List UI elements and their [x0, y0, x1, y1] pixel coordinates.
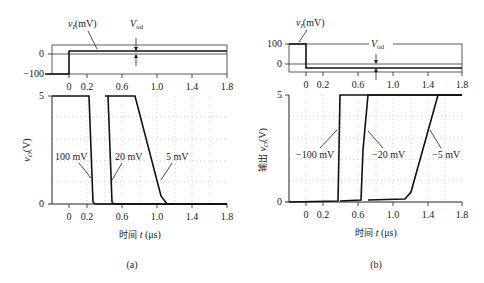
panel-a-label-5mv: 5 mV	[166, 151, 189, 162]
svg-text:1.8: 1.8	[456, 209, 469, 220]
svg-text:0.6: 0.6	[352, 209, 365, 220]
arrowhead	[374, 60, 378, 64]
panel-a-input-frame	[52, 45, 227, 74]
svg-text:1.8: 1.8	[221, 81, 234, 92]
svg-text:0: 0	[304, 209, 309, 220]
svg-text:1.0: 1.0	[151, 81, 164, 92]
panel-b-ytick-0b: 0	[277, 196, 282, 207]
svg-text:0.2: 0.2	[81, 211, 94, 222]
svg-text:0.6: 0.6	[116, 211, 129, 222]
svg-text:1.0: 1.0	[151, 211, 164, 222]
svg-text:1.8: 1.8	[456, 79, 469, 90]
panel-b-ylabel: 输出 vO(V)	[257, 128, 270, 172]
panel-b-label-m20mv: −20 mV	[372, 149, 406, 160]
svg-text:0.6: 0.6	[116, 81, 129, 92]
panel-b-vi-label: vI(mV)	[296, 17, 324, 30]
svg-text:1.4: 1.4	[422, 79, 435, 90]
panel-a-vi-arrow	[88, 31, 97, 49]
panel-a-label-20mv: 20 mV	[115, 151, 143, 162]
panel-a-caption: (a)	[126, 259, 137, 271]
annotation-arrow	[320, 130, 337, 148]
panel-b-ytick-0: 0	[277, 58, 282, 69]
panel-b-output-xticks	[306, 202, 462, 206]
arrowhead	[134, 54, 138, 58]
annotation-arrow	[430, 130, 441, 148]
panel-a-ytick-5: 5	[39, 90, 44, 101]
panel-a-ylabel: vO(V)	[21, 138, 34, 161]
panel-a-input-xticks	[69, 74, 227, 78]
panel-b-label-m100mv: −100 mV	[296, 149, 335, 160]
panel-a-xtick-labels-top: 0 0.2 0.6 1.0 1.4 1.8	[67, 81, 234, 92]
panel-b-xtick-labels-top: 0 0.2 0.6 1.0 1.4 1.8	[304, 79, 469, 90]
panel-b-xtick-labels-bottom: 0 0.2 0.6 1.0 1.4 1.8	[304, 209, 469, 220]
svg-text:0: 0	[67, 211, 72, 222]
panel-b: 100 0 0 0.2 0.6 1.0 1.4 1.8 vI(mV) Vod	[257, 17, 468, 271]
panel-a-trace-5mv	[108, 96, 227, 204]
svg-text:1.0: 1.0	[387, 79, 400, 90]
svg-text:1.4: 1.4	[186, 81, 199, 92]
panel-b-vi-arrow	[299, 30, 307, 42]
svg-text:0.2: 0.2	[317, 79, 330, 90]
svg-text:1.4: 1.4	[422, 209, 435, 220]
svg-text:0.2: 0.2	[81, 81, 94, 92]
panel-b-ytick-5: 5	[277, 89, 282, 100]
panel-b-xlabel: 时间 t (μs)	[355, 227, 397, 239]
svg-text:1.0: 1.0	[387, 209, 400, 220]
panel-a-trace-20mv	[105, 96, 227, 204]
panel-a-ytick-0b: 0	[39, 198, 44, 209]
annotation-arrow	[161, 163, 172, 180]
panel-a-vi-label: vI(mV)	[68, 18, 96, 31]
annotation-arrow	[368, 131, 383, 148]
panel-a-xtick-labels-bottom: 0 0.2 0.6 1.0 1.4 1.8	[67, 211, 234, 222]
figure: 0 −100 0 0.2 0.6 1.0 1.4 1.8 vI(mV) Vod	[0, 0, 484, 283]
panel-a: 0 −100 0 0.2 0.6 1.0 1.4 1.8 vI(mV) Vod	[21, 18, 233, 271]
svg-text:0: 0	[67, 81, 72, 92]
svg-text:0.2: 0.2	[317, 209, 330, 220]
svg-text:1.4: 1.4	[186, 211, 199, 222]
annotation-arrow	[112, 163, 122, 180]
panel-a-xlabel: 时间 t (μs)	[119, 229, 161, 241]
svg-text:1.8: 1.8	[221, 211, 234, 222]
panel-b-ytick-100: 100	[267, 38, 282, 49]
annotation-arrow	[79, 163, 91, 178]
panel-b-label-m5mv: −5 mV	[432, 149, 461, 160]
panel-b-caption: (b)	[370, 259, 382, 271]
panel-a-ytick-m100: −100	[23, 68, 44, 79]
svg-text:0.6: 0.6	[352, 79, 365, 90]
svg-text:0: 0	[304, 79, 309, 90]
panel-b-input-xticks	[306, 72, 462, 76]
panel-a-vod-label: Vod	[130, 18, 144, 31]
panel-a-label-100mv: 100 mV	[55, 151, 88, 162]
panel-a-ytick-0: 0	[39, 48, 44, 59]
